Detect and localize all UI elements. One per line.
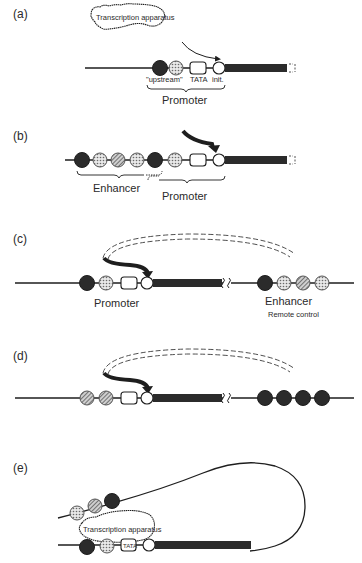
tata-box [121,392,137,404]
dna-break [222,278,231,288]
promoter-brace [147,85,225,92]
upstream-element-dotted [169,61,183,75]
tata-label: TATA [190,75,208,84]
remote-interaction-arc [103,349,295,373]
dna-break [222,393,231,403]
upstream-element-dark [80,540,95,555]
enhancer-brace [77,171,144,178]
gene-body [225,64,287,72]
enhancer-element-dotted [70,506,84,520]
panel-e-label: (e) [13,461,28,475]
enhancer-element-dotted [277,276,291,290]
init-site [141,277,153,289]
initiation-arrow [182,42,218,59]
promoter-label-c: Promoter [94,297,140,309]
apparatus-label: Transcription apparatus [96,13,175,22]
remote-interaction-arc [103,234,295,258]
enhancer-element-dark [258,391,273,406]
panel-d-label: (d) [13,349,28,363]
init-label: init. [212,75,224,84]
panel-b: (b) Enhancer Promoter [13,129,295,202]
init-site [213,62,225,74]
enhancer-element-dark [277,391,292,406]
upstream-element-dotted [100,539,114,553]
activation-arrow [104,258,148,273]
init-site [143,539,155,551]
enhancer-element-dotted [130,153,144,167]
gene-body [155,541,251,549]
tata-box [190,62,206,74]
tata-label-e: TATA [123,543,137,549]
promoter-label-a: Promoter [162,94,208,106]
tata-box [121,277,137,289]
enhancer-label-c: Enhancer [265,295,312,307]
init-site [213,154,225,166]
enhancer-element-hatched [111,153,125,167]
panel-c: (c) Promoter Enhancer Remote control [13,232,354,319]
remote-control-label: Remote control [268,310,319,319]
activation-arrow [104,373,148,388]
enhancer-element-dotted [93,153,107,167]
upstream-element-dotted [168,153,182,167]
apparatus-label-e: Transcription apparatus [83,525,162,534]
enhancer-element-dark [105,494,120,509]
panel-a-label: (a) [13,7,28,21]
tata-box [190,154,206,166]
upstream-element-dark [148,153,163,168]
panel-b-label: (b) [13,129,28,143]
gene-regulation-diagram: (a) Transcription apparatus "upstream" T… [0,0,362,563]
enhancer-element-dark [296,391,311,406]
gene-body [153,279,222,287]
gene-body [225,156,287,164]
enhancer-element-dotted [315,276,329,290]
promoter-label-b: Promoter [162,190,208,202]
upstream-element-hatched [99,391,113,405]
panel-a: (a) Transcription apparatus "upstream" T… [13,4,295,106]
enhancer-element-dark [75,153,90,168]
upstream-element-hatched [80,391,94,405]
enhancer-label-b: Enhancer [93,182,140,194]
upstream-label: "upstream" [146,75,183,84]
promoter-brace [159,176,225,183]
enhancer-element-hatched [296,276,310,290]
upstream-element-dark [153,61,168,76]
enhancer-element-hatched [88,499,102,513]
upstream-element-dotted [99,276,113,290]
strong-activation-arrow [183,131,213,148]
panel-e: (e) Transcription apparatus TATA [13,461,305,555]
enhancer-element-dark [315,391,330,406]
panel-d: (d) [13,349,354,406]
gene-body [153,394,222,402]
init-site [141,392,153,404]
enhancer-element-dark [258,276,273,291]
upstream-element-dark [80,276,95,291]
panel-c-label: (c) [13,232,27,246]
